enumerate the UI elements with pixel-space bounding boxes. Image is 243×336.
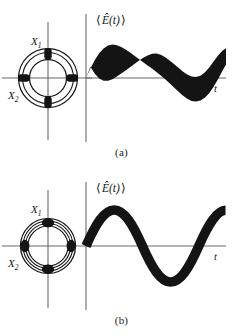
panel-a-caption: (a)	[0, 146, 243, 158]
panel-b: X1 X2 ⟨Ê(t)⟩ t (b)	[0, 168, 243, 336]
field-a-noise-band	[86, 45, 226, 102]
phase-space-a-x2-label: X2	[7, 89, 19, 104]
phase-space-b-x1-label: X1	[30, 203, 41, 218]
panel-b-svg: X1 X2 ⟨Ê(t)⟩ t	[0, 168, 243, 336]
panel-b-caption: (b)	[0, 314, 243, 326]
phase-space-b-blob-right	[67, 240, 76, 252]
phase-space-b-blob-bottom	[42, 265, 54, 274]
field-b-x-axis-label: t	[214, 251, 218, 262]
field-a-x-axis-label: t	[214, 83, 218, 94]
phase-space-a-blob-bottom	[44, 97, 51, 109]
panel-a: X1 X2 ⟨Ê(t)⟩ t (a)	[0, 0, 243, 168]
phase-space-b-x2-label: X2	[7, 257, 19, 272]
phase-space-b-blob-left	[20, 240, 29, 252]
field-a-y-axis-label: ⟨Ê(t)⟩	[96, 13, 126, 27]
phase-space-b-blob-top	[42, 218, 54, 227]
phase-space-a-blob-left	[18, 74, 30, 81]
phase-space-a-x1-label: X1	[30, 35, 41, 50]
panel-a-svg: X1 X2 ⟨Ê(t)⟩ t	[0, 0, 243, 168]
field-b-y-axis-label: ⟨Ê(t)⟩	[96, 181, 126, 195]
phase-space-a-blob-right	[67, 74, 79, 81]
phase-space-a-blob-top	[44, 48, 51, 60]
squeezed-light-figure: X1 X2 ⟨Ê(t)⟩ t (a)	[0, 0, 243, 336]
